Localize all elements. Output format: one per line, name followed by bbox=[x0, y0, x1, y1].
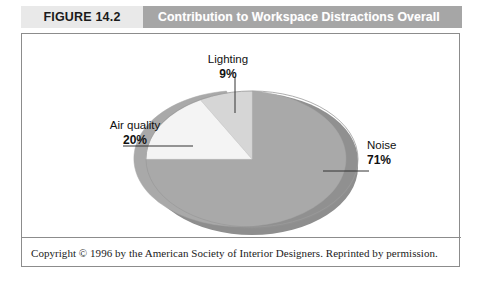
pie-label-air-quality: Air quality 20% bbox=[79, 119, 191, 147]
figure-header: FIGURE 14.2 Contribution to Workspace Di… bbox=[21, 6, 462, 28]
figure-number-label: FIGURE 14.2 bbox=[43, 10, 120, 24]
pie-label-noise-value: 71% bbox=[367, 153, 445, 167]
figure-title-label: Contribution to Workspace Distractions O… bbox=[158, 10, 440, 24]
pie-label-air-quality-value: 20% bbox=[79, 133, 191, 147]
pie-label-noise: Noise 71% bbox=[367, 139, 445, 167]
figure-number-box: FIGURE 14.2 bbox=[21, 6, 143, 28]
figure-caption-text: Copyright © 1996 by the American Society… bbox=[31, 247, 438, 259]
pie-label-lighting-value: 9% bbox=[172, 67, 284, 81]
figure-caption: Copyright © 1996 by the American Society… bbox=[22, 238, 461, 267]
pie-top-face bbox=[134, 91, 346, 227]
figure-title-box: Contribution to Workspace Distractions O… bbox=[143, 6, 462, 28]
pie-label-lighting: Lighting 9% bbox=[172, 53, 284, 81]
pie-label-noise-name: Noise bbox=[367, 139, 445, 153]
figure-frame: Lighting 9% Air quality 20% Noise 71% Co… bbox=[21, 33, 460, 267]
pie-label-lighting-name: Lighting bbox=[172, 53, 284, 67]
pie-label-air-quality-name: Air quality bbox=[79, 119, 191, 133]
pie-chart: Lighting 9% Air quality 20% Noise 71% bbox=[22, 34, 461, 237]
